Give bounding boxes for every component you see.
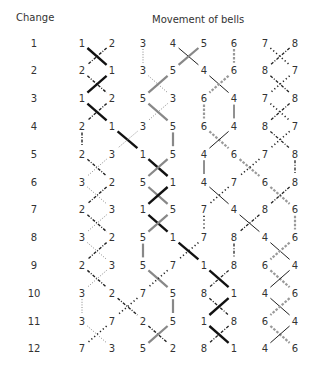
change-number: 8: [31, 232, 37, 243]
bell-number: 2: [79, 204, 85, 215]
bell-number: 4: [201, 65, 207, 76]
bell-number: 7: [262, 93, 268, 104]
bell-number: 2: [109, 232, 115, 243]
bell-number: 4: [262, 343, 268, 354]
bell-number: 4: [231, 121, 237, 132]
bell-number: 8: [262, 121, 268, 132]
bell-number: 5: [170, 149, 176, 160]
bell-number: 7: [201, 232, 207, 243]
bell-number: 5: [201, 38, 207, 49]
change-number: 6: [31, 177, 37, 188]
bell-number: 7: [262, 38, 268, 49]
bell-number: 6: [292, 232, 298, 243]
bell-number: 2: [79, 65, 85, 76]
bell-number: 2: [140, 316, 146, 327]
change-number: 1: [31, 38, 37, 49]
bell-number: 8: [231, 232, 237, 243]
bell-number: 7: [231, 177, 237, 188]
bell-number: 7: [292, 121, 298, 132]
bell-number: 7: [140, 288, 146, 299]
bell-labels: 1123456782213546873125364784213564875231…: [28, 38, 299, 355]
bell-number: 7: [170, 260, 176, 271]
bell-number: 3: [109, 343, 115, 354]
bell-number: 1: [231, 288, 237, 299]
bell-number: 5: [140, 260, 146, 271]
bell-number: 7: [79, 343, 85, 354]
bell-number: 6: [262, 260, 268, 271]
bell-number: 3: [79, 288, 85, 299]
bell-number: 2: [109, 38, 115, 49]
bell-number: 2: [109, 177, 115, 188]
bell-number: 5: [170, 121, 176, 132]
bell-number: 8: [292, 177, 298, 188]
bell-number: 2: [170, 343, 176, 354]
bell-number: 1: [201, 260, 207, 271]
bell-number: 5: [170, 288, 176, 299]
bell-number: 4: [170, 38, 176, 49]
bell-number: 2: [109, 288, 115, 299]
bell-number: 6: [231, 38, 237, 49]
bell-number: 6: [231, 65, 237, 76]
change-number: 3: [31, 93, 37, 104]
change-number: 2: [31, 65, 37, 76]
bell-movement-diagram: 1123456782213546873125364784213564875231…: [0, 0, 315, 369]
bell-number: 3: [109, 204, 115, 215]
bell-number: 6: [201, 121, 207, 132]
bell-number: 8: [262, 65, 268, 76]
bell-number: 5: [140, 93, 146, 104]
bell-1-path: [118, 131, 138, 148]
bell-number: 5: [170, 204, 176, 215]
bell-number: 3: [79, 316, 85, 327]
bell-number: 1: [79, 93, 85, 104]
bell-number: 3: [140, 38, 146, 49]
bell-number: 3: [109, 260, 115, 271]
bell-number: 6: [262, 316, 268, 327]
bell-number: 5: [140, 232, 146, 243]
change-number: 12: [28, 343, 41, 354]
bell-number: 3: [140, 65, 146, 76]
bell-number: 5: [140, 177, 146, 188]
bell-number: 6: [201, 93, 207, 104]
bell-number: 6: [292, 204, 298, 215]
bell-number: 2: [79, 149, 85, 160]
change-number: 7: [31, 204, 37, 215]
bell-number: 6: [231, 149, 237, 160]
change-number: 5: [31, 149, 37, 160]
change-number: 4: [31, 121, 37, 132]
bell-number: 3: [79, 177, 85, 188]
bell-number: 4: [292, 316, 298, 327]
bell-number: 1: [201, 316, 207, 327]
bell-number: 6: [292, 288, 298, 299]
bell-number: 5: [140, 343, 146, 354]
bell-number: 8: [231, 260, 237, 271]
bell-number: 2: [79, 260, 85, 271]
bell-number: 1: [231, 343, 237, 354]
bell-number: 1: [109, 121, 115, 132]
bell-number: 7: [262, 149, 268, 160]
bell-number: 6: [292, 343, 298, 354]
bell-number: 7: [201, 204, 207, 215]
bell-number: 4: [201, 149, 207, 160]
bell-number: 1: [140, 204, 146, 215]
change-number: 9: [31, 260, 37, 271]
bell-number: 4: [292, 260, 298, 271]
bell-number: 8: [201, 288, 207, 299]
bell-number: 4: [201, 177, 207, 188]
bell-number: 1: [79, 38, 85, 49]
bell-number: 8: [292, 38, 298, 49]
bell-number: 8: [231, 316, 237, 327]
bell-number: 2: [109, 93, 115, 104]
bell-number: 2: [79, 121, 85, 132]
bell-number: 4: [231, 93, 237, 104]
bell-number: 1: [170, 232, 176, 243]
bell-number: 4: [231, 204, 237, 215]
bell-number: 3: [170, 93, 176, 104]
bell-number: 4: [262, 232, 268, 243]
bell-number: 7: [109, 316, 115, 327]
change-number: 10: [28, 288, 41, 299]
bell-number: 1: [140, 149, 146, 160]
bell-number: 5: [170, 316, 176, 327]
bell-number: 3: [109, 149, 115, 160]
bell-number: 4: [262, 288, 268, 299]
bell-number: 3: [79, 232, 85, 243]
